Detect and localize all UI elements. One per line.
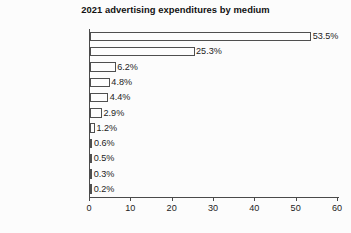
bar[interactable]: [90, 62, 116, 71]
bar-value-label: 25.3%: [195, 46, 222, 57]
bar-container: 4.4%: [90, 93, 338, 102]
x-axis-tick: [296, 197, 297, 201]
x-axis-tick-label: 50: [281, 203, 311, 213]
x-axis-line: [89, 197, 339, 198]
bar-container: 0.2%: [90, 184, 338, 193]
bar-container: 2.9%: [90, 108, 338, 117]
bar-row: Video games0.6%: [90, 136, 338, 151]
bar-row: TV25.3%: [90, 44, 338, 59]
bar-container: 53.5%: [90, 32, 338, 41]
x-axis-tick-label: 60: [322, 203, 351, 213]
bar-container: 25.3%: [90, 47, 338, 56]
x-axis-tick: [130, 197, 131, 201]
bar-container: 0.5%: [90, 154, 338, 163]
bar[interactable]: [90, 78, 110, 87]
x-axis-tick: [254, 197, 255, 201]
chart-page: 2021 advertising expenditures by medium …: [0, 0, 351, 233]
bar-value-label: 4.4%: [108, 92, 130, 103]
bar-row: OOH2.9%: [90, 105, 338, 120]
bar-value-label: 6.2%: [116, 62, 138, 73]
bar[interactable]: [90, 47, 195, 56]
bar-row: Digital music0.5%: [90, 151, 338, 166]
x-axis-tick: [89, 197, 90, 201]
bar-row: Podcast0.3%: [90, 166, 338, 181]
bar-row: Cinema0.2%: [90, 182, 338, 197]
x-axis-tick-label: 10: [115, 203, 145, 213]
x-axis-tick-label: 40: [239, 203, 269, 213]
plot-area: Internet53.5%TV25.3%Radio6.2%Newspaper4.…: [90, 29, 338, 197]
x-axis-tick: [213, 197, 214, 201]
bar-value-label: 4.8%: [110, 77, 132, 88]
x-axis-tick: [337, 197, 338, 201]
bar-value-label: 0.3%: [92, 169, 114, 180]
x-axis-tick: [172, 197, 173, 201]
bar-row: Internet53.5%: [90, 29, 338, 44]
x-axis-tick-label: 0: [74, 203, 104, 213]
bar-row: Radio6.2%: [90, 60, 338, 75]
bar-value-label: 2.9%: [102, 108, 124, 119]
x-axis-tick-label: 20: [157, 203, 187, 213]
bar-row: Trade1.2%: [90, 121, 338, 136]
bar-value-label: 0.5%: [92, 153, 114, 164]
bar-container: 0.3%: [90, 169, 338, 178]
bar-container: 4.8%: [90, 78, 338, 87]
bar-row: Consumer mag4.4%: [90, 90, 338, 105]
bar-container: 6.2%: [90, 62, 338, 71]
bar-value-label: 53.5%: [311, 31, 338, 42]
bar[interactable]: [90, 93, 108, 102]
x-axis-tick-label: 30: [198, 203, 228, 213]
bar-value-label: 1.2%: [95, 123, 117, 134]
bar-container: 1.2%: [90, 123, 338, 132]
bar[interactable]: [90, 108, 102, 117]
bar-row: Newspaper4.8%: [90, 75, 338, 90]
bar-value-label: 0.2%: [92, 184, 114, 195]
chart-title: 2021 advertising expenditures by medium: [0, 4, 351, 15]
bar-container: 0.6%: [90, 139, 338, 148]
bar[interactable]: [90, 32, 311, 41]
bar-value-label: 0.6%: [92, 138, 114, 149]
